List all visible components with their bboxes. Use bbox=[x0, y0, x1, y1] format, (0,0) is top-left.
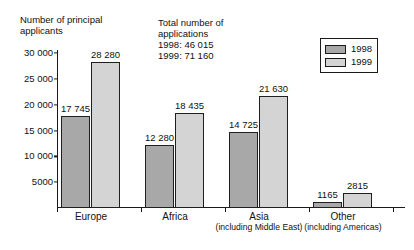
y-axis-tick-label: 5000 bbox=[32, 177, 53, 187]
x-axis-tick-mark bbox=[309, 208, 310, 212]
y-axis-tick-label: 20 000 bbox=[24, 100, 53, 110]
bar-africa-1999[interactable] bbox=[175, 113, 204, 208]
y-axis-tick-label: 10 000 bbox=[24, 152, 53, 162]
bar-other-1999[interactable] bbox=[343, 193, 372, 208]
y-axis-title: Number of principal applicants bbox=[20, 14, 160, 36]
y-axis-tick-mark bbox=[54, 52, 58, 53]
y-axis-tick-label: 15 000 bbox=[24, 126, 53, 136]
y-axis-tick-label: 30 000 bbox=[24, 48, 53, 58]
bar-europe-1998[interactable] bbox=[61, 116, 90, 208]
x-axis-tick-mark bbox=[393, 208, 394, 212]
y-axis-tick-mark bbox=[54, 78, 58, 79]
bar-asia-1998[interactable] bbox=[229, 132, 258, 208]
y-axis-tick-mark bbox=[54, 130, 58, 131]
bar-europe-1999[interactable] bbox=[91, 62, 120, 208]
bar-other-1998[interactable] bbox=[313, 202, 342, 208]
x-axis-label-other: Other(including Americas) bbox=[304, 211, 381, 232]
y-axis-tick-mark bbox=[54, 182, 58, 183]
x-axis-tick-mark bbox=[225, 208, 226, 212]
bar-chart: Number of principal applicants Total num… bbox=[0, 0, 414, 250]
x-axis-label-sub: (including Americas) bbox=[304, 222, 381, 232]
x-axis-label-africa: Africa bbox=[162, 211, 188, 222]
x-axis-tick-mark bbox=[57, 208, 58, 212]
x-axis-tick-mark bbox=[141, 208, 142, 212]
y-axis-tick-label: 25 000 bbox=[24, 74, 53, 84]
x-axis-label-europe: Europe bbox=[75, 211, 107, 222]
plot-area: 30 00025 00020 00015 00010 000500017 745… bbox=[57, 53, 402, 208]
bar-value-label: 12 280 bbox=[145, 133, 174, 143]
bar-asia-1999[interactable] bbox=[259, 96, 288, 208]
x-axis-label-main: Europe bbox=[75, 211, 107, 222]
bar-value-label: 28 280 bbox=[91, 50, 120, 60]
x-axis-label-main: Africa bbox=[162, 211, 188, 222]
x-axis-label-sub: (including Middle East) bbox=[216, 222, 303, 232]
y-axis-tick-mark bbox=[54, 104, 58, 105]
x-axis-label-asia: Asia(including Middle East) bbox=[216, 211, 303, 232]
x-axis-label-main: Other bbox=[330, 211, 355, 222]
bar-value-label: 17 745 bbox=[61, 104, 90, 114]
bar-value-label: 21 630 bbox=[259, 84, 288, 94]
bar-value-label: 2815 bbox=[347, 181, 368, 191]
x-axis-label-main: Asia bbox=[249, 211, 268, 222]
bar-value-label: 1165 bbox=[317, 190, 337, 200]
bar-value-label: 18 435 bbox=[175, 101, 204, 111]
y-axis-tick-mark bbox=[54, 156, 58, 157]
bar-africa-1998[interactable] bbox=[145, 145, 174, 208]
bar-value-label: 14 725 bbox=[229, 120, 258, 130]
